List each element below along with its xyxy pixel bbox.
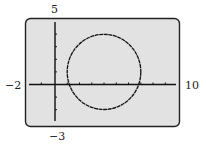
calculator-screen: [0, 0, 206, 147]
